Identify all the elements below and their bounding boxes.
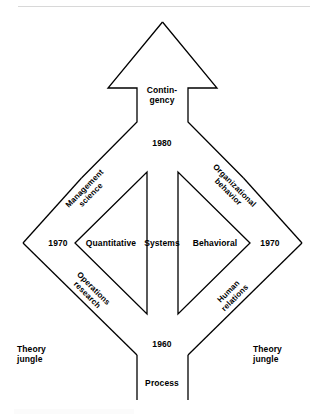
label-year-1970-left: 1970 xyxy=(48,238,67,248)
diamond-lower-right-edge xyxy=(188,243,302,355)
label-process: Process xyxy=(145,378,179,388)
diamond-upper-right-edge xyxy=(244,178,303,243)
label-theory-jungle-right: Theory jungle xyxy=(253,344,282,364)
label-contingency: Contin- gency xyxy=(147,85,177,105)
label-systems: Systems xyxy=(144,238,180,248)
label-theory-jungle-left: Theory jungle xyxy=(17,344,46,364)
figure-canvas: Contin- gency 1980 Management science Or… xyxy=(0,0,325,420)
label-year-1980: 1980 xyxy=(152,138,171,148)
diamond-lower-left-edge xyxy=(23,243,137,355)
label-behavioral: Behavioral xyxy=(193,238,237,248)
page-edge-artifact xyxy=(14,409,134,414)
label-quantitative: Quantitative xyxy=(86,238,136,248)
label-year-1960: 1960 xyxy=(152,339,171,349)
label-year-1970-right: 1970 xyxy=(260,238,279,248)
